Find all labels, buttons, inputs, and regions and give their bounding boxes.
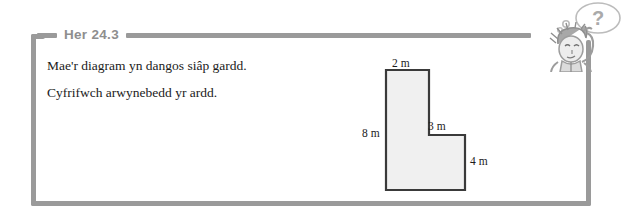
worksheet-page: Her 24.3 Mae'r diagram yn dangos siâp ga… <box>0 0 626 224</box>
thought-bubble-question-mark: ? <box>592 7 604 29</box>
thinking-boy-illustration: ? <box>536 0 626 72</box>
question-line-2: Cyfrifwch arwynebedd yr ardd. <box>47 86 217 100</box>
heading-dash-left-icon <box>37 33 57 38</box>
exercise-heading-label: Her 24.3 <box>64 28 119 42</box>
exercise-heading: Her 24.3 <box>37 26 531 44</box>
dimension-label-right: 4 m <box>470 156 488 168</box>
l-shape-polygon <box>386 70 465 190</box>
dimension-label-top: 2 m <box>392 58 410 70</box>
heading-rule-icon <box>126 33 531 38</box>
question-line-1: Mae'r diagram yn dangos siâp gardd. <box>47 59 247 73</box>
dimension-label-left: 8 m <box>362 128 380 140</box>
dimension-label-middle: 3 m <box>428 121 446 133</box>
frame-left-border <box>31 34 36 206</box>
boy-figure <box>550 22 593 72</box>
